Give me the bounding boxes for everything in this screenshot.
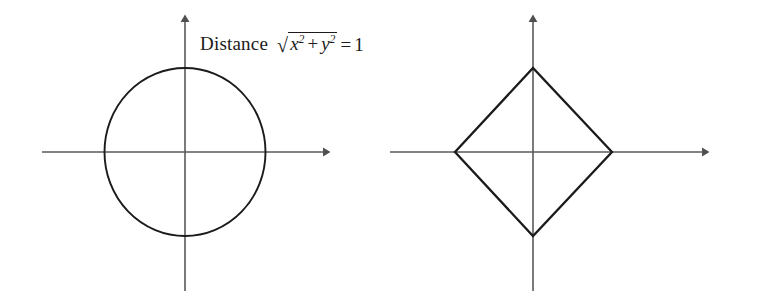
radicand: x2+y2 (288, 32, 336, 53)
plus-operator: + (304, 33, 321, 54)
formula-euclidean: √x2+y2=1 (277, 33, 364, 54)
exponent-y: 2 (330, 33, 336, 46)
caption-label-distance: Distance (200, 33, 268, 54)
diamond-diagram-graphic (378, 0, 757, 301)
equals-sign: = (337, 34, 355, 55)
radical-group: √x2+y2 (277, 33, 336, 54)
radical-sign-icon: √ (277, 34, 288, 56)
panel-euclidean-circle: Distance√x2+y2=1 (0, 0, 378, 301)
caption-euclidean: Distance√x2+y2=1 (200, 32, 364, 53)
variable-y: y (321, 33, 329, 54)
distance-metrics-figure: Distance√x2+y2=1 Distance|x|+|y|=1 (0, 0, 757, 301)
value-one: 1 (354, 34, 364, 55)
variable-x: x (290, 33, 298, 54)
panel-taxicab-diamond: Distance|x|+|y|=1 (378, 0, 757, 301)
